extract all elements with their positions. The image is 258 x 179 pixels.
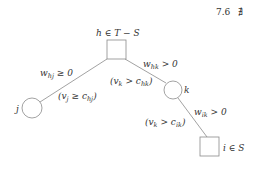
section-symbol: ∄ bbox=[238, 7, 243, 17]
edge-h-j-condition: (vj ≥ chj) bbox=[58, 91, 97, 104]
section-header: 7.6 ∄ bbox=[216, 7, 243, 17]
node-i-label: i ∈ S bbox=[223, 143, 244, 153]
node-j-circle bbox=[22, 98, 42, 118]
node-j-label: j bbox=[16, 104, 19, 114]
diagram-graphics bbox=[0, 0, 258, 179]
node-h-label: h ∈ T − S bbox=[96, 28, 140, 38]
edge-k-i-weight: wik > 0 bbox=[194, 107, 227, 120]
node-i-square bbox=[200, 137, 219, 156]
diagram-canvas bbox=[0, 0, 258, 179]
edge-k-i-condition: (vk > cik) bbox=[145, 117, 185, 130]
edge-h-k-weight: whk > 0 bbox=[143, 59, 178, 72]
section-number: 7.6 bbox=[216, 7, 230, 17]
node-h-square bbox=[107, 40, 126, 59]
node-k-label: k bbox=[184, 85, 189, 95]
node-k-circle bbox=[164, 81, 182, 99]
edge-h-k-condition: (vk > chk) bbox=[110, 76, 153, 89]
edge-h-j-weight: whj ≥ 0 bbox=[40, 68, 73, 81]
